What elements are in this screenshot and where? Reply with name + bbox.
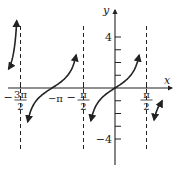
fraction-minus: − bbox=[3, 91, 12, 104]
tangent-branch bbox=[9, 21, 17, 69]
tangent-branch bbox=[154, 101, 162, 120]
x-point-label: −π bbox=[48, 93, 63, 104]
fraction-numerator: 3π bbox=[14, 89, 27, 100]
fraction-numerator: π bbox=[80, 89, 87, 100]
fraction-minus: − bbox=[67, 91, 76, 104]
y-tick-label: 4 bbox=[105, 31, 112, 44]
tangent-graph: yx−3π2−π2π2−π4−4 bbox=[0, 0, 177, 169]
y-tick-label: −4 bbox=[96, 133, 112, 146]
fraction-numerator: π bbox=[143, 89, 150, 100]
fraction-denominator: 2 bbox=[143, 101, 149, 112]
fraction-denominator: 2 bbox=[80, 101, 86, 112]
x-axis-label: x bbox=[164, 74, 171, 87]
fraction-denominator: 2 bbox=[17, 101, 23, 112]
y-axis-label: y bbox=[102, 4, 110, 17]
